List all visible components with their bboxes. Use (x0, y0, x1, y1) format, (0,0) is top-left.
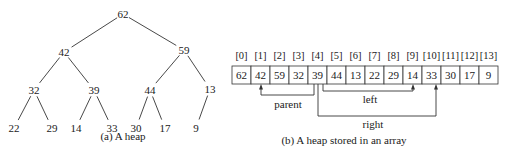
heap-diagram: 624259323944132229143330179 (a) A heap [… (0, 0, 509, 156)
array-index-label: [1] (254, 50, 266, 61)
array-cell-value: 30 (445, 69, 457, 81)
tree-edges (18, 18, 207, 120)
tree-edge (18, 96, 31, 120)
tree-edge (37, 96, 48, 120)
array-cell-value: 33 (426, 69, 438, 81)
parent-pointer-line (261, 84, 314, 95)
tree-caption: (a) A heap (100, 130, 146, 143)
tree-node: 39 (89, 84, 101, 96)
tree-node: 13 (205, 83, 217, 95)
left-arrowhead-icon (411, 84, 415, 90)
left-label: left (363, 93, 378, 105)
array-cells: 624259323944132229143330179 (232, 66, 498, 84)
array-cell-value: 42 (255, 69, 266, 81)
array-cell-value: 44 (331, 69, 343, 81)
array-indices: [0][1][2][3][4][5][6][7][8][9][10][11][1… (235, 50, 497, 61)
parent-label: parent (274, 98, 301, 110)
tree-node: 29 (47, 122, 59, 134)
array-index-label: [8] (387, 50, 399, 61)
tree-node: 9 (193, 122, 199, 134)
array-index-label: [9] (406, 50, 418, 61)
right-arrowhead-icon (434, 84, 438, 90)
array-cell-value: 22 (369, 69, 380, 81)
tree-node: 44 (145, 84, 157, 96)
tree-edge (80, 96, 91, 120)
array-index-label: [3] (292, 50, 304, 61)
array-cell-value: 62 (236, 69, 247, 81)
array-cell-value: 14 (407, 69, 419, 81)
tree-edge (139, 97, 147, 120)
tree-edge (97, 96, 108, 120)
tree-edge (153, 97, 162, 120)
array-index-label: [5] (330, 50, 342, 61)
tree-node: 62 (118, 8, 129, 20)
tree-nodes: 624259323944132229143330179 (9, 8, 217, 134)
array-cell-value: 39 (312, 69, 324, 81)
tree-node: 17 (160, 122, 172, 134)
tree-node: 42 (59, 46, 70, 58)
tree-edge (188, 56, 205, 82)
array-pointers: parent left right (259, 84, 438, 130)
tree-edge (129, 18, 176, 46)
tree-edge (68, 57, 88, 82)
array-cell-value: 17 (464, 69, 476, 81)
right-label: right (363, 118, 384, 130)
array-cell-value: 13 (350, 69, 362, 81)
tree-edge (156, 55, 180, 83)
array-cell-value: 29 (388, 69, 400, 81)
tree-edge (40, 57, 60, 82)
array-cell-value: 59 (274, 69, 286, 81)
array-index-label: [13] (480, 50, 498, 61)
tree-edge (72, 18, 118, 47)
tree-node: 14 (71, 122, 83, 134)
array-index-label: [10] (423, 50, 441, 61)
left-pointer-line (323, 84, 413, 91)
tree-node: 22 (9, 122, 20, 134)
array-index-label: [2] (273, 50, 285, 61)
array-index-label: [6] (349, 50, 361, 61)
array-cell-value: 9 (486, 69, 492, 81)
array-index-label: [11] (442, 50, 459, 61)
array-cell-value: 32 (293, 69, 304, 81)
array-caption: (b) A heap stored in an array (281, 134, 407, 147)
array-index-label: [7] (368, 50, 380, 61)
array-index-label: [4] (311, 50, 323, 61)
tree-node: 59 (179, 44, 191, 56)
tree-node: 32 (29, 84, 40, 96)
tree-edge (199, 96, 208, 120)
array-index-label: [0] (235, 50, 247, 61)
parent-arrowhead-icon (259, 84, 263, 90)
array-index-label: [12] (461, 50, 479, 61)
